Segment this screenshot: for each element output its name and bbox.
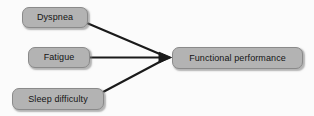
edge-line-dyspnea: [88, 24, 168, 58]
node-fatigue-label: Fatigue: [44, 53, 75, 62]
edge-dyspnea-to-functional-performance: [88, 24, 168, 58]
node-sleep-difficulty-label: Sleep difficulty: [28, 95, 87, 104]
node-fatigue[interactable]: Fatigue: [28, 47, 90, 68]
node-dyspnea[interactable]: Dyspnea: [22, 7, 88, 28]
node-dyspnea-label: Dyspnea: [37, 13, 73, 22]
node-functional-performance[interactable]: Functional performance: [172, 47, 303, 69]
arrowhead-icon: [159, 52, 172, 63]
node-functional-performance-label: Functional performance: [189, 54, 286, 63]
node-sleep-difficulty[interactable]: Sleep difficulty: [12, 88, 104, 110]
edge-line-sleep-difficulty: [104, 58, 168, 92]
edge-sleep-difficulty-to-functional-performance: [104, 58, 168, 92]
diagram-canvas: Dyspnea Fatigue Sleep difficulty Functio…: [0, 0, 314, 116]
